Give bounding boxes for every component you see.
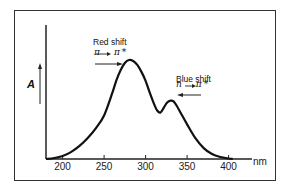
x-tick-label: 200: [54, 161, 71, 172]
x-tick-label: 300: [137, 161, 154, 172]
blue-transition-label: nπ*: [176, 79, 210, 89]
pi-star-symbol: π*: [114, 47, 128, 57]
x-tick-label: 250: [96, 161, 113, 172]
pi-symbol: π: [94, 47, 102, 57]
red-transition-label: ππ*: [94, 47, 128, 57]
x-unit-label: nm: [253, 156, 267, 167]
x-tick-label: 400: [220, 161, 237, 172]
blue-shift-arrowhead-icon: [177, 93, 183, 97]
pi-star-symbol: π*: [196, 79, 210, 89]
y-arrow-icon: [38, 63, 42, 69]
n-symbol: n: [176, 79, 184, 89]
red-shift-label: Red shift: [93, 37, 127, 47]
x-tick-label: 350: [179, 161, 196, 172]
y-axis-label: A: [27, 78, 35, 90]
